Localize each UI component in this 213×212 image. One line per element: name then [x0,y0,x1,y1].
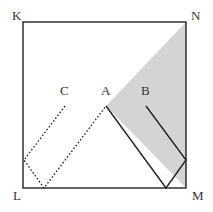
label-k: K [12,8,22,23]
geometry-diagram: K N L M C A B [0,0,213,212]
label-c: C [60,83,69,98]
label-a: A [101,83,111,98]
label-m: M [192,188,204,203]
label-n: N [191,8,201,23]
dotted-path-c-to-a [24,106,106,188]
label-l: L [13,188,21,203]
shaded-region [106,22,186,188]
label-b: B [141,83,150,98]
